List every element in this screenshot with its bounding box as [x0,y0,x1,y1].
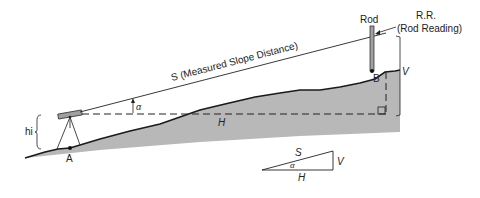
rod-label: Rod [360,14,378,25]
rod-reading-abbr-label: R.R. [416,10,436,21]
angle-label: α [136,102,142,112]
inset-hypotenuse-label: S [295,147,302,158]
rod-reading-arrowhead-icon [375,30,380,35]
vertical-label: V [402,66,410,77]
tripod-leg-left [57,117,70,149]
inset-horizontal-label: H [298,172,306,183]
rod-reading-full-label: (Rod Reading) [397,23,462,34]
instrument-pivot [69,116,72,119]
instrument-height-label: hi [25,126,33,137]
point-a-marker [68,146,72,150]
slope-distance-label: S (Measured Slope Distance) [170,40,299,83]
inset-vertical-label: V [337,156,345,167]
horizontal-label: H [218,117,226,128]
rod [370,26,374,71]
tripod-leg-right [70,117,80,145]
surveying-diagram: S (Measured Slope Distance) Rod R.R. (Ro… [0,0,480,198]
inset-angle-label: α [290,161,295,170]
point-a-label: A [66,153,73,164]
hi-bracket [35,115,41,149]
point-b-label: B [373,73,380,84]
